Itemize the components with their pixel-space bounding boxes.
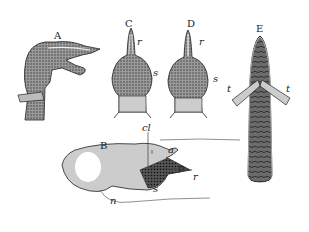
panel-e-t-left-label: t xyxy=(227,84,231,94)
panel-b-p-label: p xyxy=(178,163,184,173)
panel-e-t-right-label: t xyxy=(286,84,290,94)
panel-a-drawing xyxy=(18,42,100,121)
illustration-canvas xyxy=(0,0,309,232)
panel-c-s-label: s xyxy=(153,68,158,78)
panel-d-r-label: r xyxy=(199,37,204,47)
panel-b-label: B xyxy=(100,141,107,151)
panel-b-s-label: s xyxy=(153,184,158,194)
panel-a-label: A xyxy=(54,31,61,41)
panel-c-r-label: r xyxy=(137,37,142,47)
panel-b-n-label: n xyxy=(110,196,116,206)
panel-c-label: C xyxy=(125,19,133,29)
panel-b-r-label: r xyxy=(193,172,198,182)
panel-b-drawing xyxy=(62,132,240,203)
panel-c-drawing xyxy=(112,28,152,118)
panel-e-label: E xyxy=(256,24,263,34)
panel-d-label: D xyxy=(187,19,195,29)
panel-b-a-label: a xyxy=(168,145,174,155)
panel-e-drawing xyxy=(232,36,290,183)
panel-d-s-label: s xyxy=(213,74,218,84)
panel-b-cl-label: cl xyxy=(142,123,151,133)
